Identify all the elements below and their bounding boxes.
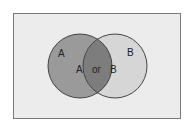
set-a-label: A <box>58 48 65 59</box>
set-a-inner-label: A <box>76 64 83 75</box>
set-b-label: B <box>127 47 134 58</box>
venn-diagram: A B A or B <box>0 0 189 125</box>
set-b-inner-label: B <box>110 64 117 75</box>
intersection-label: or <box>92 64 102 75</box>
